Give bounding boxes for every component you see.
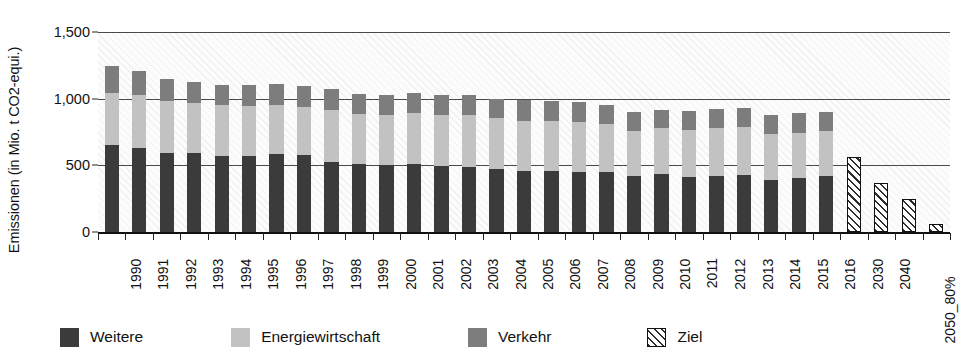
x-tick-mark xyxy=(730,233,731,240)
plot-area xyxy=(98,32,950,232)
bar-segment xyxy=(269,105,283,154)
x-tick-mark xyxy=(868,233,869,240)
x-tick-label: 2012 xyxy=(732,259,748,290)
legend-item[interactable]: Ziel xyxy=(647,328,702,347)
solid-medium-gray-swatch xyxy=(468,328,487,347)
x-tick-label: 2000 xyxy=(402,259,418,290)
x-tick-mark xyxy=(950,233,951,240)
bar-segment xyxy=(187,103,201,153)
x-tick-mark xyxy=(235,233,236,240)
x-tick-label: 2001 xyxy=(430,259,446,290)
bar-group xyxy=(105,66,119,232)
x-tick-mark xyxy=(840,233,841,240)
bar-group xyxy=(572,102,586,232)
bar-group xyxy=(132,71,146,232)
x-tick-label: 1994 xyxy=(237,259,253,290)
bar-segment xyxy=(572,172,586,232)
bar-segment xyxy=(434,95,448,114)
bar-segment xyxy=(462,115,476,167)
bar-segment xyxy=(489,169,503,232)
bar-segment xyxy=(215,156,229,232)
bar-segment xyxy=(407,164,421,232)
bar-segment xyxy=(737,175,751,232)
bar-group xyxy=(352,94,366,232)
bar-segment xyxy=(572,102,586,122)
x-tick-label: 2016 xyxy=(842,259,858,290)
bar-group xyxy=(792,113,806,232)
bar-segment xyxy=(462,167,476,232)
x-tick-mark xyxy=(620,233,621,240)
bar-group xyxy=(489,99,503,232)
bar-group xyxy=(379,95,393,232)
bar-segment xyxy=(160,153,174,232)
bar-segment xyxy=(627,131,641,176)
bar-segment xyxy=(489,118,503,169)
bar-segment xyxy=(599,105,613,124)
bar-group xyxy=(599,105,613,232)
x-tick-label: 1999 xyxy=(375,259,391,290)
bar-segment xyxy=(462,95,476,114)
bar-segment xyxy=(105,93,119,146)
x-tick-label: 1997 xyxy=(320,259,336,290)
x-tick-mark xyxy=(290,233,291,240)
bar-segment xyxy=(187,153,201,232)
x-tick-mark xyxy=(180,233,181,240)
x-tick-label: 1990 xyxy=(127,259,143,290)
bar-segment xyxy=(599,124,613,172)
x-tick-label: 1991 xyxy=(155,259,171,290)
bar-segment xyxy=(132,71,146,95)
bar-segment xyxy=(627,112,641,131)
bar-segment xyxy=(764,180,778,232)
x-tick-label: 2010 xyxy=(677,259,693,290)
bar-segment xyxy=(847,157,861,232)
bar-group xyxy=(737,108,751,232)
bar-group xyxy=(215,85,229,232)
emissions-stacked-bar-chart: Emissionen (in Mio. t CO2-equi.) 05001,0… xyxy=(0,0,964,363)
bar-segment xyxy=(709,128,723,176)
bar-segment xyxy=(324,89,338,110)
bar-group xyxy=(709,109,723,232)
bar-segment xyxy=(544,171,558,232)
bar-group xyxy=(654,110,668,232)
bar-segment xyxy=(737,127,751,176)
x-tick-label: 1998 xyxy=(347,259,363,290)
bar-segment xyxy=(902,199,916,232)
bar-segment xyxy=(682,111,696,130)
legend-item[interactable]: Verkehr xyxy=(468,328,551,347)
legend-label: Weitere xyxy=(90,328,143,346)
x-tick-mark xyxy=(923,233,924,240)
y-axis-title-text: Emissionen (in Mio. t CO2-equi.) xyxy=(6,47,22,253)
bar-segment xyxy=(517,100,531,121)
bar-segment xyxy=(105,145,119,232)
x-tick-label: 1995 xyxy=(265,259,281,290)
x-tick-mark xyxy=(263,233,264,240)
bar-segment xyxy=(764,115,778,134)
legend-item[interactable]: Weitere xyxy=(60,328,143,347)
x-tick-mark xyxy=(153,233,154,240)
legend-label: Ziel xyxy=(677,328,702,346)
bar-segment xyxy=(792,178,806,232)
x-tick-label: 2008 xyxy=(622,259,638,290)
bar-segment xyxy=(434,115,448,166)
x-tick-mark xyxy=(483,233,484,240)
bar-group xyxy=(187,82,201,232)
x-tick-label: 2011 xyxy=(704,258,720,288)
x-tick-label: 1996 xyxy=(292,259,308,290)
bar-segment xyxy=(709,176,723,232)
bar-group xyxy=(819,112,833,232)
legend-item[interactable]: Energiewirtschaft xyxy=(231,328,380,347)
bar-segment xyxy=(709,109,723,128)
x-tick-mark xyxy=(703,233,704,240)
bars-layer xyxy=(98,32,950,232)
bar-group xyxy=(682,111,696,232)
bar-group xyxy=(627,112,641,232)
x-tick-label: 2015 xyxy=(814,259,830,290)
bar-segment xyxy=(489,99,503,118)
x-tick-label: 2013 xyxy=(759,259,775,290)
y-axis-title: Emissionen (in Mio. t CO2-equi.) xyxy=(0,0,28,300)
bar-segment xyxy=(517,121,531,172)
bar-segment xyxy=(324,110,338,162)
bar-group xyxy=(434,95,448,232)
bar-segment xyxy=(324,162,338,232)
x-tick-label: 2014 xyxy=(787,259,803,290)
